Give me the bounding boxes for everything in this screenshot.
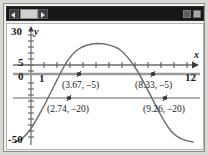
x-axis-label-1: 1 [39,73,45,84]
graph-canvas [7,24,203,149]
x-axis-name: x [194,50,199,60]
x-axis-label-12: 12 [185,72,196,83]
y-axis-min-label: -50 [8,134,23,145]
window-close-icon[interactable] [193,10,201,18]
graph-plot-area[interactable]: 30 5 0 -50 1 12 y x (3.67, –5) (8.33, –5… [6,23,204,150]
point-label-3-67: (3.67, –5) [62,81,99,91]
point-marker-2-74 [67,96,72,100]
window-frame: 30 5 0 -50 1 12 y x (3.67, –5) (8.33, –5… [3,3,205,152]
point-label-8-33: (8.33, –5) [135,81,172,91]
scrollbar-thumb[interactable] [20,9,38,19]
plotted-curve [15,44,193,143]
y-axis-name: y [34,27,38,37]
y-axis-max-label: 30 [11,26,22,37]
point-marker-9-26 [163,96,168,100]
x-axis-arrowhead [192,62,199,69]
title-bar [6,6,204,21]
y-axis-arrowhead [28,26,34,32]
point-label-2-74: (2.74, –20) [47,105,89,115]
window-control-icon[interactable] [183,10,191,18]
point-label-9-26: (9.26, –20) [143,105,185,115]
triangle-left-icon[interactable] [9,9,19,19]
triangle-right-icon[interactable] [38,9,48,19]
y-axis-label-0: 0 [18,71,24,82]
y-axis-label-5: 5 [18,57,24,68]
graphing-calculator-window: 30 5 0 -50 1 12 y x (3.67, –5) (8.33, –5… [0,0,208,155]
